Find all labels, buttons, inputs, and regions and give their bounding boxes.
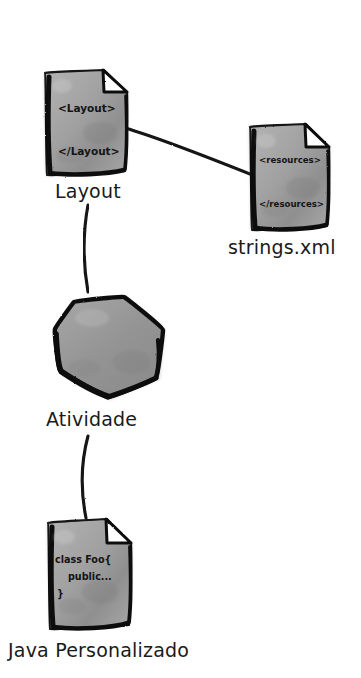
java-code-line-1: public... bbox=[68, 571, 112, 582]
node-atividade[interactable] bbox=[55, 297, 165, 400]
strings-code-line-1: </resources> bbox=[259, 199, 324, 209]
activity-hexagon-icon bbox=[55, 297, 163, 397]
node-label-java: Java Personalizado bbox=[8, 641, 189, 660]
java-code-line-0: class Foo{ bbox=[55, 554, 111, 566]
node-layout[interactable]: <Layout> </Layout> bbox=[44, 70, 128, 176]
node-label-layout: Layout bbox=[55, 182, 121, 201]
layout-code-line-0: <Layout> bbox=[58, 102, 116, 114]
edge-layout-to-strings bbox=[123, 125, 260, 178]
diagram-svg: <Layout> </Layout> <resources> </resourc… bbox=[0, 0, 361, 678]
node-java[interactable]: class Foo{ public... } bbox=[47, 519, 132, 629]
edge-atividade-to-java bbox=[82, 436, 88, 518]
node-label-strings: strings.xml bbox=[228, 238, 336, 257]
diagram-canvas: <Layout> </Layout> <resources> </resourc… bbox=[0, 0, 361, 678]
java-code-line-2: } bbox=[57, 588, 64, 600]
strings-code-line-0: <resources> bbox=[259, 155, 321, 165]
layout-code-line-1: </Layout> bbox=[58, 145, 119, 157]
node-label-atividade: Atividade bbox=[46, 410, 137, 429]
edge-layout-to-atividade bbox=[84, 205, 88, 292]
node-strings[interactable]: <resources> </resources> bbox=[249, 124, 330, 230]
